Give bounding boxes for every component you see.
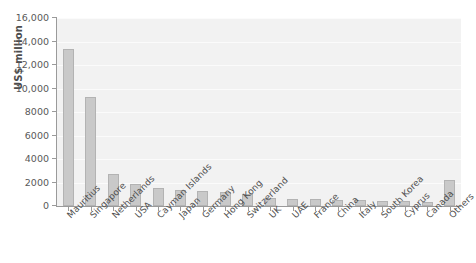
y-axis-ticks: 16,00014,00012,00010,0008000600040002000… [0,0,57,263]
y-tick-label: 8000 [25,106,49,118]
y-tick-label: 4000 [25,153,49,165]
y-tick-mark [52,158,57,159]
gridline [57,159,461,160]
y-tick-mark [52,205,57,206]
y-tick-label: 6000 [25,130,49,142]
gridline [57,18,461,19]
gridline [57,42,461,43]
gridline [57,65,461,66]
plot-area [57,18,461,206]
y-tick-label: 16,000 [16,12,49,24]
y-tick-label: 10,000 [16,83,49,95]
y-tick-label: 12,000 [16,59,49,71]
y-tick: 16,000 [0,12,57,24]
gridline [57,112,461,113]
y-tick-mark [52,88,57,89]
y-tick-mark [52,17,57,18]
y-tick: 2000 [0,177,57,189]
y-tick: 14,000 [0,36,57,48]
y-tick-mark [52,182,57,183]
y-tick: 0 [0,200,57,212]
y-tick: 12,000 [0,59,57,71]
y-tick-label: 0 [43,200,49,212]
y-tick: 8000 [0,106,57,118]
y-tick: 10,000 [0,83,57,95]
bar [63,49,74,206]
y-tick-mark [52,111,57,112]
chart-title [60,0,460,6]
y-tick-mark [52,64,57,65]
y-tick: 4000 [0,153,57,165]
gridline [57,136,461,137]
y-tick-mark [52,41,57,42]
bar [153,188,164,206]
y-tick-label: 14,000 [16,36,49,48]
y-tick-mark [52,135,57,136]
y-tick-label: 2000 [25,177,49,189]
gridline [57,89,461,90]
y-tick: 6000 [0,130,57,142]
